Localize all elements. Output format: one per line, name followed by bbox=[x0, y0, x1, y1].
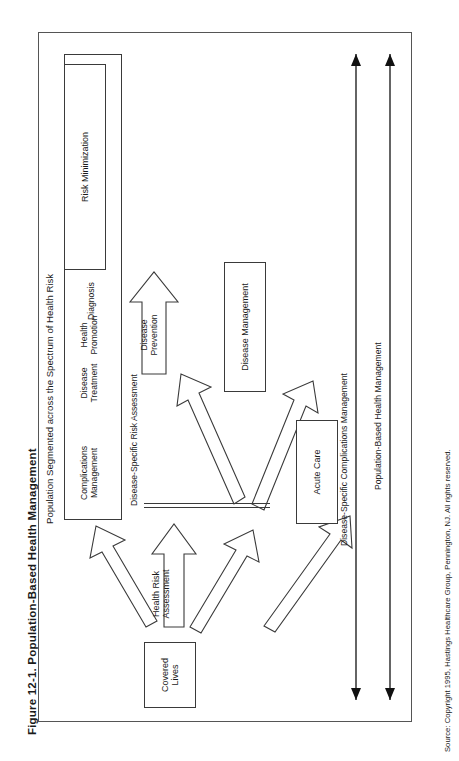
disease-specific-risk-assessment-label: Disease-Specific Risk Assessment bbox=[130, 374, 140, 506]
spectrum-caption: Population Segmented across the Spectrum… bbox=[44, 274, 55, 524]
fanout-arrow-lower bbox=[190, 530, 259, 633]
acute-care-label: Acute Care bbox=[312, 449, 322, 494]
covered-lives-box: CoveredLives bbox=[144, 642, 196, 708]
diagram-canvas: CoveredLives Health RiskAssessment Popul… bbox=[38, 32, 412, 722]
fanout-arrow-upper bbox=[90, 526, 157, 627]
disease-management-label: Disease Management bbox=[240, 283, 250, 371]
acute-care-box: Acute Care bbox=[296, 420, 338, 524]
risk-minimization-label: Risk Minimization bbox=[80, 132, 90, 202]
covered-lives-label: CoveredLives bbox=[160, 658, 181, 692]
figure-page: Figure 12-1. Population-Based Health Man… bbox=[0, 0, 459, 761]
disease-management-box: Disease Management bbox=[224, 262, 266, 392]
figure-source-note: Source: Copyright 1995, Hastings Healthc… bbox=[443, 449, 452, 752]
dsra-arrow-upper bbox=[177, 374, 245, 504]
segment-complications-management: ComplicationsManagement bbox=[80, 430, 100, 516]
span-arrow-population bbox=[385, 54, 395, 700]
figure-caption: Figure 12-1. Population-Based Health Man… bbox=[26, 448, 38, 735]
risk-minimization-box: Risk Minimization bbox=[64, 64, 106, 270]
disease-prevention-label: DiseasePrevention bbox=[140, 304, 160, 366]
health-promotion-label: HealthPromotion bbox=[80, 304, 100, 366]
span-label-complications: Disease-Specific Complications Managemen… bbox=[340, 373, 350, 546]
span-arrow-complications bbox=[351, 54, 361, 700]
span-label-population: Population-Based Health Management bbox=[374, 342, 384, 490]
disease-specific-bracket bbox=[144, 503, 270, 508]
